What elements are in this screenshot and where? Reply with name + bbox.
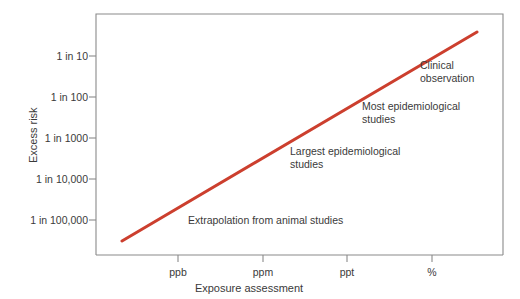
x-axis-ticks [178,255,432,262]
x-axis-title: Exposure assessment [195,283,303,294]
y-tick-label-1-in-1000: 1 in 1000 [45,133,88,144]
y-axis-ticks [89,56,96,220]
y-tick-label-1-in-100000: 1 in 100,000 [30,215,88,226]
y-tick-label-1-in-10: 1 in 10 [56,51,88,62]
x-tick-label-percent: % [427,267,436,278]
chart-plot-svg [0,0,520,299]
annotation-most-epidemiological-studies: Most epidemiological studies [362,100,460,127]
y-tick-label-1-in-10000: 1 in 10,000 [36,174,88,185]
x-tick-label-ppt: ppt [340,267,355,278]
x-tick-label-ppm: ppm [253,267,273,278]
x-tick-label-ppb: ppb [169,267,187,278]
annotation-largest-epidemiological-studies: Largest epidemiological studies [290,145,400,172]
y-tick-label-1-in-100: 1 in 100 [51,92,88,103]
annotation-clinical-observation: Clinical observation [420,59,474,86]
risk-exposure-chart-figure: 1 in 10 1 in 100 1 in 1000 1 in 10,000 1… [0,0,520,299]
annotation-extrapolation-from-animal-studies: Extrapolation from animal studies [188,214,343,227]
y-axis-title: Excess risk [28,107,39,163]
